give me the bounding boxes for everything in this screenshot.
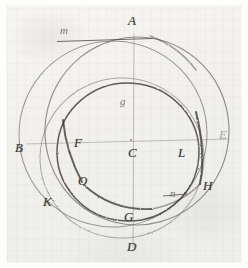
dark-arc-bottom xyxy=(84,185,152,209)
center-dot xyxy=(130,139,132,141)
label-O: O xyxy=(78,174,87,187)
label-H: H xyxy=(203,179,212,192)
label-L: L xyxy=(178,146,185,159)
label-G: G xyxy=(124,210,133,223)
geometry-drawing xyxy=(0,0,248,268)
label-E: E xyxy=(219,128,227,141)
label-A: A xyxy=(128,14,136,27)
label-F: F xyxy=(74,136,82,149)
label-B: B xyxy=(15,141,23,154)
label-m: m xyxy=(60,25,68,36)
manuscript-figure: m A g E B F C L O H n K G D xyxy=(0,0,248,268)
label-C: C xyxy=(128,146,137,159)
outer-circle-left xyxy=(10,32,216,237)
label-K: K xyxy=(43,195,52,208)
label-n: n xyxy=(170,188,176,199)
label-D: D xyxy=(127,240,136,253)
label-g: g xyxy=(120,96,126,107)
